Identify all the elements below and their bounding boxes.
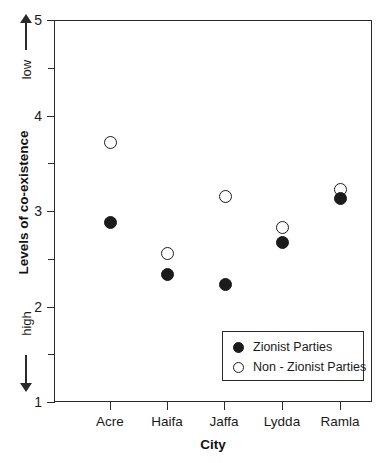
y-tick-minor-2p5 — [48, 259, 54, 260]
x-tick-ramla — [340, 402, 341, 410]
data-point-jaffa-non-zionist — [219, 190, 232, 203]
data-point-acre-non-zionist — [104, 136, 117, 149]
x-axis-title: City — [54, 437, 372, 452]
x-tick-acre — [110, 402, 111, 410]
arrow-down-icon — [20, 383, 32, 392]
y-tick-major-2 — [47, 307, 55, 308]
legend-label-non-zionist: Non - Zionist Parties — [253, 361, 366, 374]
x-tick-haifa — [167, 402, 168, 410]
y-tick-label-1: 1 — [16, 395, 42, 409]
y-tick-major-3 — [47, 211, 55, 212]
data-point-lydda-non-zionist — [276, 221, 289, 234]
filled-circle-icon — [233, 342, 244, 353]
y-tick-major-1 — [47, 402, 55, 403]
data-point-jaffa-zionist — [219, 278, 232, 291]
scale-label-high: high — [19, 289, 34, 359]
y-tick-major-4 — [47, 116, 55, 117]
scatter-chart: 5 4 3 2 1 low high Acre Haifa Jaffa Lydd… — [0, 0, 387, 463]
open-circle-icon — [233, 362, 244, 373]
y-tick-minor-4p5 — [48, 68, 54, 69]
x-tick-label-ramla: Ramla — [305, 414, 375, 430]
y-tick-minor-1p5 — [48, 354, 54, 355]
data-point-lydda-zionist — [276, 236, 289, 249]
legend-label-zionist: Zionist Parties — [253, 341, 332, 354]
legend: Zionist Parties Non - Zionist Parties — [222, 331, 364, 381]
data-point-ramla-zionist — [334, 192, 347, 205]
y-axis-title: Levels of co-existence — [16, 108, 31, 298]
arrow-down-shaft — [25, 355, 27, 385]
data-point-acre-zionist — [104, 216, 117, 229]
scale-label-low: low — [19, 35, 34, 105]
x-tick-lydda — [282, 402, 283, 410]
legend-entry-zionist: Zionist Parties — [233, 338, 332, 356]
y-tick-minor-3p5 — [48, 163, 54, 164]
y-tick-major-5 — [47, 20, 55, 21]
legend-entry-non-zionist: Non - Zionist Parties — [233, 358, 366, 376]
x-tick-jaffa — [224, 402, 225, 410]
